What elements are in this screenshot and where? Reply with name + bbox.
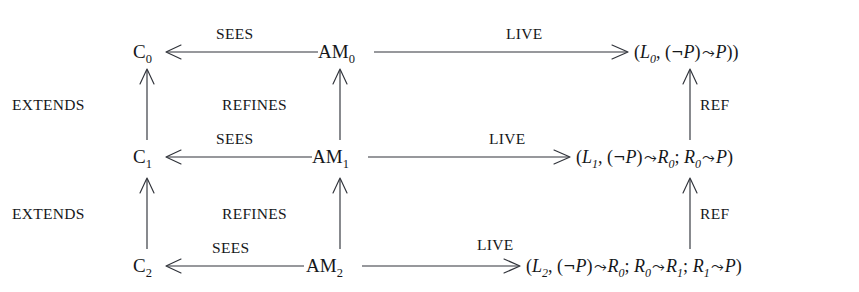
edge-label-refines-upper: REFINES [222,97,287,113]
node-context-0: C0 [133,42,152,65]
ref-arrow-upper [683,69,697,140]
edge-label-sees-top: SEES [216,26,253,42]
node-machine-1: AM1 [312,147,349,170]
live-arrow-top [374,45,628,59]
refines-arrow-lower [333,178,347,249]
edge-label-refines-lower: REFINES [222,206,287,222]
live-arrow-middle [368,150,570,164]
extends-arrow-lower [140,178,154,249]
edge-label-live-middle: LIVE [489,131,526,147]
edge-label-ref-upper: REF [700,97,729,113]
edge-label-live-bottom: LIVE [477,237,514,253]
edge-label-extends-lower: EXTENDS [12,206,85,222]
sees-arrow-top [166,45,318,59]
edge-label-extends-upper: EXTENDS [12,97,85,113]
edge-label-ref-lower: REF [700,206,729,222]
refinement-diagram: C0 C1 C2 AM0 AM1 AM2 (L0, (¬P)⤳P)) (L1, … [0,0,859,292]
sees-arrow-middle [166,150,312,164]
sees-arrow-bottom [166,259,304,273]
node-context-2: C2 [133,256,152,279]
edge-label-sees-middle: SEES [216,131,253,147]
extends-arrow-upper [140,69,154,140]
live-arrow-bottom [362,259,520,273]
refines-arrow-upper [333,69,347,140]
node-machine-0: AM0 [318,42,355,65]
node-context-1: C1 [133,147,152,170]
node-machine-2: AM2 [306,256,343,279]
ref-arrow-lower [683,178,697,249]
formula-liveness-1: (L1, (¬P)⤳R0; R0⤳P) [576,148,733,170]
edge-label-sees-bottom: SEES [212,240,249,256]
formula-liveness-0: (L0, (¬P)⤳P)) [634,43,739,65]
formula-liveness-2: (L2, (¬P)⤳R0; R0⤳R1; R1⤳P) [526,257,742,279]
edge-label-live-top: LIVE [506,26,543,42]
